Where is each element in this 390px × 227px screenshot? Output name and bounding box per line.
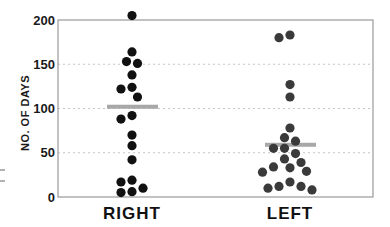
y-tick-label: 200 [33, 13, 55, 28]
data-points [116, 11, 316, 197]
data-point-left [291, 137, 300, 146]
data-point-right [116, 84, 125, 93]
data-point-right [133, 59, 142, 68]
data-point-left [291, 149, 300, 158]
data-point-left [307, 185, 316, 194]
data-point-left [269, 144, 278, 153]
data-point-right [127, 70, 136, 79]
data-point-right [127, 111, 136, 120]
data-point-right [127, 131, 136, 140]
data-point-left [258, 168, 267, 177]
y-tick-label: 0 [48, 190, 55, 205]
data-point-left [285, 163, 294, 172]
data-point-right [116, 115, 125, 124]
data-point-right [127, 141, 136, 150]
data-point-left [285, 92, 294, 101]
data-point-right [127, 187, 136, 196]
data-point-left [285, 177, 294, 186]
data-point-right [133, 92, 142, 101]
data-point-right [138, 184, 147, 193]
data-point-right [116, 177, 125, 186]
y-tick-label: 50 [41, 145, 55, 160]
dot-plot-chart: 050100150200 NO. OF DAYS RIGHTLEFT [0, 0, 390, 227]
plot-frame [58, 20, 373, 197]
median-bar-right [107, 105, 158, 109]
y-tick-label: 150 [33, 57, 55, 72]
data-point-left [274, 182, 283, 191]
data-point-left [296, 158, 305, 167]
y-tick-label: 100 [33, 101, 55, 116]
category-label-right: RIGHT [103, 204, 161, 223]
data-point-right [127, 83, 136, 92]
data-point-left [302, 167, 311, 176]
y-axis-ticks: 050100150200 [33, 13, 55, 205]
data-point-left [280, 154, 289, 163]
data-point-left [285, 30, 294, 39]
data-point-left [263, 184, 272, 193]
data-point-right [116, 188, 125, 197]
data-point-right [127, 155, 136, 164]
data-point-left [274, 33, 283, 42]
data-point-left [285, 123, 294, 132]
data-point-left [285, 80, 294, 89]
category-labels: RIGHTLEFT [103, 204, 313, 223]
category-label-left: LEFT [267, 204, 314, 223]
data-point-left [280, 133, 289, 142]
data-point-right [127, 176, 136, 185]
data-point-right [127, 11, 136, 20]
data-point-left [269, 162, 278, 171]
y-axis-title: NO. OF DAYS [19, 75, 31, 151]
data-point-left [280, 144, 289, 153]
data-point-right [127, 47, 136, 56]
gridlines [58, 64, 373, 153]
data-point-right [122, 57, 131, 66]
data-point-left [296, 182, 305, 191]
